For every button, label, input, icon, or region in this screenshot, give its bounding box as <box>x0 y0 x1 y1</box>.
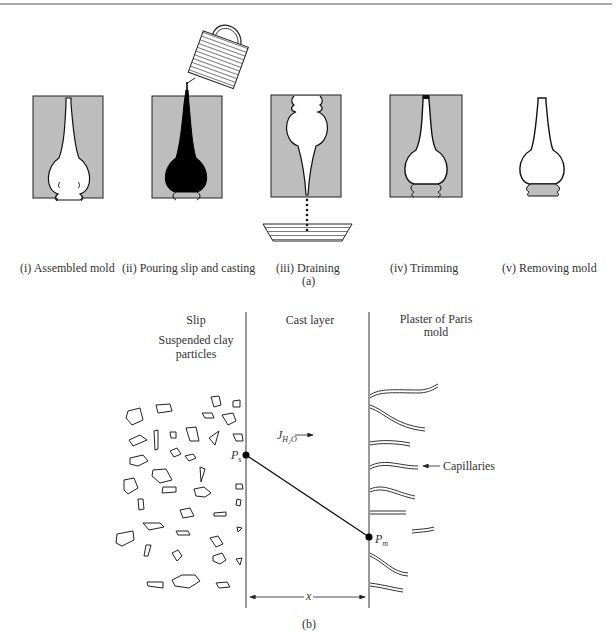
clay-particles <box>116 396 243 588</box>
capillaries <box>370 384 438 592</box>
point-ps <box>243 452 250 459</box>
slip-casting-figure: (i) Assembled mold (ii) Pouring slip and… <box>0 0 616 632</box>
flux-label: JH₂O <box>277 428 297 444</box>
point-pm <box>366 534 373 541</box>
cast-layer-title: Cast layer <box>270 313 350 328</box>
mold-region-title: Plaster of Paris mold <box>384 313 488 339</box>
caption-a: (a) <box>302 274 315 289</box>
caption-b: (b) <box>302 617 316 632</box>
mold-assembled <box>33 96 103 201</box>
step-label-removing: (v) Removing mold <box>502 261 597 276</box>
mold-draining <box>263 95 352 241</box>
step-label-trimming: (iv) Trimming <box>390 261 458 276</box>
step-label-pouring: (ii) Pouring slip and casting <box>122 261 255 276</box>
mold-pouring <box>152 18 253 200</box>
mold-trimming <box>390 95 462 197</box>
cast-piece-removed <box>520 98 564 196</box>
slip-region-title: Slip <box>166 313 226 328</box>
thickness-x-label: x <box>304 589 313 604</box>
pm-label: Pm <box>375 532 388 548</box>
ps-label: Ps <box>231 448 241 464</box>
capillaries-label: Capillaries <box>443 459 495 474</box>
step-label-assembled: (i) Assembled mold <box>20 261 115 276</box>
slip-region-subtitle: Suspended clay particles <box>146 333 246 361</box>
pitcher-icon <box>188 18 253 88</box>
